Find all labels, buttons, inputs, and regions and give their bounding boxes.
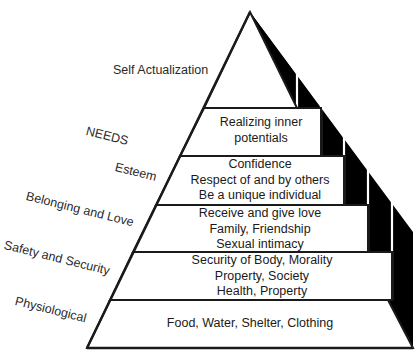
tier-line: Realizing inner <box>205 115 317 131</box>
tier-line: Confidence <box>180 157 340 173</box>
tier-physiological-text: Food, Water, Shelter, Clothing <box>140 316 360 332</box>
tier-line: Property, Society <box>150 269 374 285</box>
tier-line: Respect of and by others <box>180 173 340 189</box>
tier-line: Receive and give love <box>156 206 364 222</box>
tier-line: Sexual intimacy <box>156 237 364 253</box>
tier-line: Be a unique individual <box>180 188 340 204</box>
tier-line: Family, Friendship <box>156 222 364 238</box>
tier-line: potentials <box>205 131 317 147</box>
label-self-actualization: Self Actualization <box>113 63 208 77</box>
tier-safety-text: Security of Body, Morality Property, Soc… <box>150 253 374 300</box>
tier-esteem-text: Confidence Respect of and by others Be a… <box>180 157 340 204</box>
tier-line: Food, Water, Shelter, Clothing <box>140 316 360 332</box>
tier-line: Security of Body, Morality <box>150 253 374 269</box>
tier-line: Health, Property <box>150 284 374 300</box>
tier-self-actualization-text: Realizing inner potentials <box>205 115 317 146</box>
tier-belonging-text: Receive and give love Family, Friendship… <box>156 206 364 253</box>
